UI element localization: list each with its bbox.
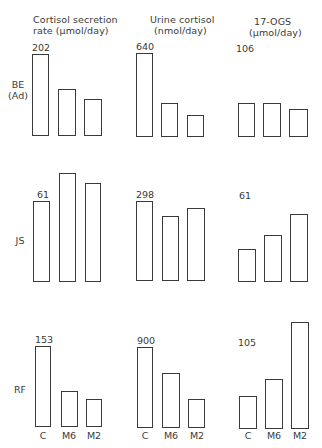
bar-js-cortisol-secretion-m2 — [85, 183, 101, 282]
bar-rf-17-ogs-m6 — [265, 379, 283, 429]
x-label-urine-cortisol-m2: M2 — [185, 431, 209, 441]
bar-rf-urine-cortisol-c — [137, 347, 153, 428]
bar-rf-17-ogs-m2 — [291, 322, 309, 429]
row-label-rf: RF — [2, 384, 38, 395]
value-label-be-cortisol-secretion: 202 — [32, 43, 50, 53]
bar-be-cortisol-secretion-c — [32, 54, 49, 136]
bar-be-urine-cortisol-m2 — [187, 115, 204, 137]
bar-be-urine-cortisol-m6 — [161, 103, 178, 137]
value-label-js-17-ogs: 61 — [239, 191, 251, 201]
bar-be-17-ogs-c — [238, 103, 255, 137]
x-label-cortisol-secretion-c: C — [31, 431, 55, 441]
row-label-be-ad: (Ad) — [0, 90, 36, 101]
bar-be-cortisol-secretion-m6 — [58, 89, 76, 136]
x-label-cortisol-secretion-m6: M6 — [57, 431, 81, 441]
bar-rf-cortisol-secretion-m2 — [86, 399, 102, 427]
x-label-17-ogs-c: C — [236, 431, 260, 441]
bar-be-urine-cortisol-c — [136, 53, 153, 137]
bar-js-17-ogs-m6 — [264, 235, 282, 282]
x-label-urine-cortisol-m6: M6 — [159, 431, 183, 441]
column-header-cortisol-secretion-line2: rate (μmol/day) — [33, 25, 109, 36]
column-header-cortisol-secretion-line1: Cortisol secretion — [33, 14, 118, 25]
value-label-be-17-ogs: 106 — [236, 44, 254, 54]
bar-rf-cortisol-secretion-c — [35, 346, 51, 427]
value-label-rf-cortisol-secretion: 153 — [35, 335, 53, 345]
bar-rf-urine-cortisol-m2 — [188, 399, 205, 428]
bar-rf-urine-cortisol-m6 — [162, 373, 180, 428]
x-label-urine-cortisol-c: C — [133, 431, 157, 441]
bar-js-cortisol-secretion-c — [33, 201, 50, 282]
cortisol-small-multiples-figure: Cortisol secretion rate (μmol/day) Urine… — [0, 0, 322, 448]
bar-rf-cortisol-secretion-m6 — [61, 391, 78, 427]
value-label-be-urine-cortisol: 640 — [136, 42, 154, 52]
column-header-urine-cortisol-line2: (nmol/day) — [154, 25, 207, 36]
bar-js-17-ogs-c — [238, 249, 256, 282]
column-header-17-ogs-line2: (μmol/day) — [249, 27, 302, 38]
bar-js-17-ogs-m2 — [290, 214, 308, 282]
value-label-rf-17-ogs: 105 — [238, 338, 256, 348]
bar-js-urine-cortisol-m6 — [162, 216, 179, 281]
value-label-js-urine-cortisol: 298 — [136, 190, 154, 200]
x-label-17-ogs-m2: M2 — [288, 431, 312, 441]
bar-be-17-ogs-m2 — [289, 109, 308, 137]
x-label-cortisol-secretion-m2: M2 — [82, 431, 106, 441]
bar-be-17-ogs-m6 — [263, 103, 281, 137]
column-header-17-ogs-line1: 17-OGS — [254, 16, 291, 27]
row-label-be: BE — [0, 79, 36, 90]
bar-be-cortisol-secretion-m2 — [84, 99, 102, 136]
bar-js-urine-cortisol-m2 — [187, 208, 205, 281]
column-header-urine-cortisol-line1: Urine cortisol — [150, 14, 215, 25]
bar-rf-17-ogs-c — [239, 396, 257, 429]
x-label-17-ogs-m6: M6 — [262, 431, 286, 441]
bar-js-cortisol-secretion-m6 — [59, 173, 76, 282]
bar-js-urine-cortisol-c — [136, 201, 153, 281]
value-label-rf-urine-cortisol: 900 — [137, 336, 155, 346]
value-label-js-cortisol-secretion: 61 — [37, 190, 49, 200]
